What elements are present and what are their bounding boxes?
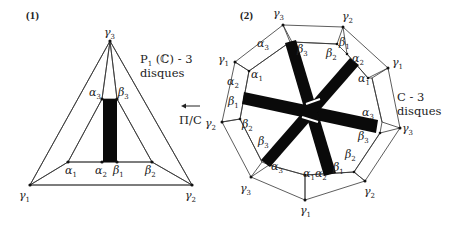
panel-2-caption-line2: disques [397, 104, 442, 118]
triangle-bottom-band [30, 162, 192, 185]
svg-text:γ3: γ3 [273, 7, 284, 22]
svg-text:β2: β2 [344, 148, 356, 163]
panel-2-caption-line1: C - 3 [397, 90, 424, 104]
svg-text:γ2: γ2 [364, 185, 375, 200]
svg-text:γ2: γ2 [342, 10, 353, 25]
arrow-label: Π/C [179, 113, 202, 127]
svg-text:α3: α3 [257, 37, 269, 52]
panel-1-label: (1) [26, 9, 39, 22]
svg-text:α2: α2 [352, 52, 364, 67]
svg-text:α2: α2 [227, 75, 239, 90]
svg-text:α3: α3 [271, 160, 283, 175]
svg-text:β2: β2 [325, 47, 337, 62]
svg-text:γ1: γ1 [218, 53, 229, 68]
label-beta3: β3 [117, 86, 129, 101]
svg-text:α3: α3 [362, 106, 374, 121]
svg-text:γ3: γ3 [240, 182, 251, 197]
label-gamma3: γ3 [104, 26, 115, 41]
svg-text:α1: α1 [358, 72, 370, 87]
label-alpha2: α2 [95, 164, 107, 179]
svg-text:γ1: γ1 [300, 204, 311, 219]
svg-text:β1: β1 [332, 161, 344, 176]
projection-arrow: Π/C [179, 104, 202, 128]
svg-text:γ2: γ2 [205, 117, 216, 132]
svg-text:β1: β1 [338, 36, 350, 51]
svg-text:β3: β3 [357, 130, 369, 145]
svg-text:α1: α1 [251, 68, 263, 83]
svg-text:β3: β3 [296, 43, 308, 58]
label-alpha3: α3 [89, 86, 101, 101]
label-beta2: β2 [144, 164, 156, 179]
svg-text:β2: β2 [241, 118, 253, 133]
svg-text:β1: β1 [227, 95, 239, 110]
figure-canvas: (1) γ3 γ1 γ2 α3 β3 α1 α2 β1 β2 P1 (ℂ) - … [0, 0, 457, 225]
disk-bar [103, 99, 117, 162]
svg-text:γ1: γ1 [392, 56, 403, 71]
svg-text:γ3: γ3 [402, 122, 413, 137]
label-gamma2: γ2 [185, 189, 196, 204]
arrow-left-icon [181, 104, 186, 109]
label-alpha1: α1 [65, 164, 77, 179]
panel-2: (2) [205, 7, 442, 219]
panel-1: (1) γ3 γ1 γ2 α3 β3 α1 α2 β1 β2 P1 (ℂ) - … [19, 9, 196, 204]
svg-text:β3: β3 [257, 135, 269, 150]
apex-line-beta [110, 41, 117, 99]
panel-2-label: (2) [240, 9, 253, 22]
label-gamma1: γ1 [19, 189, 30, 204]
panel-1-caption-line2: disques [140, 66, 185, 80]
apex-line-alpha [102, 41, 110, 99]
label-beta1: β1 [112, 164, 124, 179]
